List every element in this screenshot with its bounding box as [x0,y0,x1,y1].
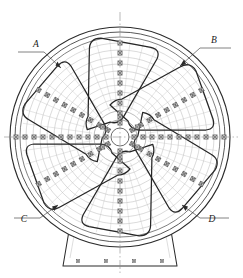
callout-label-C: C [21,214,28,224]
technical-drawing-svg: A B C D [0,0,243,278]
callout-label-B: B [211,35,217,45]
callout-label-D: D [208,214,216,224]
drawing-canvas: A B C D [0,0,243,278]
callout-label-A: A [32,39,39,49]
